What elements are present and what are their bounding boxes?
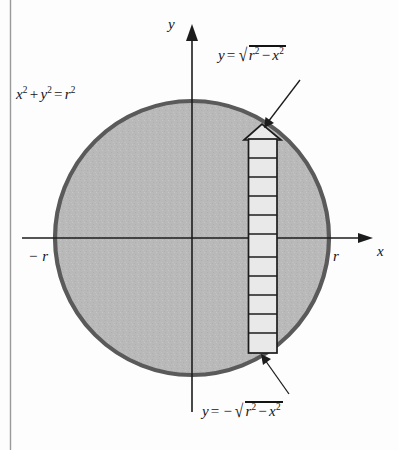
x-axis-tick-label-negative-r: − r	[28, 248, 48, 265]
radical-bar	[245, 401, 283, 403]
upper-eq-y: y	[218, 47, 225, 63]
upper-eq-minus: −	[260, 47, 273, 63]
lower-eq-x-exp: 2	[276, 402, 281, 412]
lower-leader-line	[261, 354, 289, 394]
radical-sign-icon: √	[238, 45, 247, 66]
lower-eq-equals: =	[209, 403, 222, 419]
upper-eq-r-exp: 2	[255, 46, 260, 56]
circle-eq-x: x	[16, 86, 23, 102]
vertical-strip	[244, 124, 281, 353]
circle-eq-r-exp: 2	[71, 85, 76, 95]
circle-eq-equals: =	[52, 86, 65, 102]
x-axis-arrowhead	[358, 233, 373, 243]
x-axis-label: x	[377, 243, 384, 260]
lower-eq-leading-minus: −	[222, 403, 235, 419]
upper-eq-equals: =	[225, 47, 238, 63]
circle-equation-label: x2+y2=r2	[16, 86, 76, 103]
radical-bar	[249, 45, 287, 47]
diagram-canvas	[0, 0, 399, 450]
upper-leader-line	[264, 80, 300, 128]
upper-eq-radical: √r2−x2	[238, 44, 287, 65]
lower-semicircle-equation-label: y=−√r2−x2	[202, 400, 283, 421]
upper-semicircle-equation-label: y=√r2−x2	[218, 44, 286, 65]
strip-body	[249, 139, 278, 353]
lower-eq-radicand: r2−x2	[244, 403, 282, 420]
radical-sign-icon: √	[235, 401, 244, 422]
lower-eq-y: y	[202, 403, 209, 419]
upper-eq-radicand: r2−x2	[248, 47, 286, 64]
lower-eq-minus: −	[256, 403, 269, 419]
circle-eq-x-exp: 2	[23, 85, 28, 95]
circle-eq-plus: +	[28, 86, 41, 102]
lower-eq-radical: √r2−x2	[234, 400, 283, 421]
upper-eq-x-exp: 2	[279, 46, 284, 56]
x-axis-tick-label-positive-r: r	[333, 248, 339, 265]
circle-area-diagram: x2+y2=r2 y=√r2−x2 y=−√r2−x2 y x − r r	[0, 0, 399, 450]
lower-eq-x: x	[269, 403, 276, 419]
y-axis-label: y	[168, 16, 175, 33]
y-axis-arrowhead	[186, 24, 198, 41]
